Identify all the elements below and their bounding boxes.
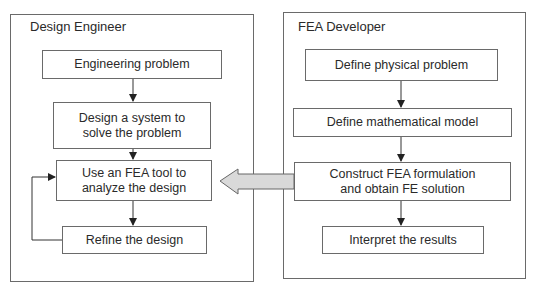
step-interpret-results: Interpret the results xyxy=(322,226,484,254)
step-define-mathematical-model: Define mathematical model xyxy=(293,108,512,137)
step-label: Define physical problem xyxy=(335,58,468,73)
step-engineering-problem: Engineering problem xyxy=(42,50,222,79)
step-label: Define mathematical model xyxy=(327,115,478,130)
step-use-fea-tool: Use an FEA tool to analyze the design xyxy=(56,160,212,201)
step-label: Use an FEA tool to analyze the design xyxy=(82,166,186,196)
step-label: Construct FEA formulation and obtain FE … xyxy=(330,167,476,197)
step-construct-fea-formulation: Construct FEA formulation and obtain FE … xyxy=(294,162,511,201)
step-design-system: Design a system to solve the problem xyxy=(53,102,211,149)
step-define-physical-problem: Define physical problem xyxy=(305,49,498,81)
step-label: Interpret the results xyxy=(349,233,457,248)
step-label: Design a system to solve the problem xyxy=(79,111,185,141)
step-label: Refine the design xyxy=(86,233,183,248)
fea-developer-title: FEA Developer xyxy=(298,19,385,34)
step-refine-design: Refine the design xyxy=(62,226,207,254)
step-label: Engineering problem xyxy=(74,57,189,72)
design-engineer-title: Design Engineer xyxy=(30,19,126,34)
